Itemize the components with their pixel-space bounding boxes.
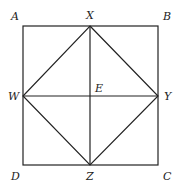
label-z: Z (85, 170, 94, 183)
label-a: A (10, 10, 19, 23)
label-x: X (85, 9, 95, 22)
label-d: D (10, 170, 20, 183)
label-y: Y (164, 90, 173, 103)
label-b: B (162, 10, 171, 23)
label-e: E (94, 82, 103, 95)
label-w: W (8, 90, 21, 103)
geometry-diagram: A X B W E Y D Z C (0, 0, 182, 189)
label-c: C (163, 170, 172, 183)
